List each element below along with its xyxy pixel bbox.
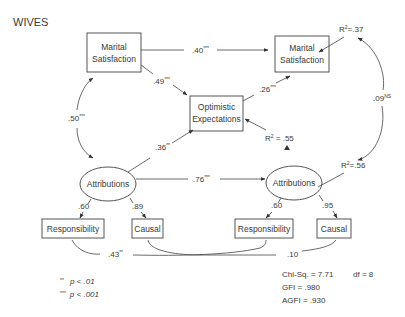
coef-label: .36**: [155, 142, 170, 152]
node-label: Attributions: [273, 178, 316, 188]
node-label: Responsibility: [47, 224, 100, 234]
node-label: Causal: [321, 224, 348, 234]
significance-legend: **p < .01 ***p < .001: [60, 277, 99, 299]
path-diagram: WIVES Marital Satisfaction Marital Satis…: [0, 0, 405, 317]
fit-gfi: GFI = .980: [282, 283, 321, 292]
loading-right-responsibility: .60: [266, 198, 283, 218]
coef-label: .10: [287, 250, 299, 259]
coef-label: .26***: [259, 84, 276, 94]
fit-agfi: AGFI = .930: [282, 296, 326, 305]
covariance-responsibility: .43**: [72, 240, 266, 259]
fit-chisq: Chi-Sq. = 7.71: [282, 270, 334, 279]
node-label: Responsibility: [238, 224, 291, 234]
path-optimistic-to-ms: .26***: [243, 76, 290, 101]
node-marital-satisfaction-t2: Marital Satisfaction: [275, 36, 329, 72]
covariance-causal: .10: [148, 240, 336, 259]
coef-label: .50***: [68, 113, 85, 123]
node-attributions-t1: Attributions: [80, 167, 136, 201]
node-causal-t2: Causal: [317, 219, 351, 238]
loading-label: .89: [132, 202, 144, 211]
coef-label: .76***: [193, 174, 210, 184]
loading-right-causal: .95: [319, 195, 337, 218]
loading-left-responsibility: .60: [78, 199, 91, 218]
loading-left-causal: .89: [130, 198, 146, 218]
path-attributions-to-optimistic: .36**: [128, 130, 193, 172]
fit-df: df = 8: [353, 270, 374, 279]
path-ms-to-optimistic: .49***: [141, 65, 187, 95]
node-label: Satisfaction: [92, 54, 136, 64]
node-optimistic-expectations: Optimistic Expectations: [190, 96, 243, 131]
path-ms-to-ms: .40***: [141, 45, 268, 55]
r2-label: R2 = .55: [265, 133, 294, 143]
r-squared-attributions: R2=.56: [318, 160, 366, 187]
covariance-residuals: .09NS: [358, 38, 392, 160]
loading-label: .60: [271, 201, 283, 210]
coef-label: .49***: [153, 76, 170, 86]
node-label: Marital: [289, 43, 315, 53]
coef-label: .09NS: [373, 93, 392, 103]
node-label: Causal: [134, 224, 161, 234]
diagram-title: WIVES: [13, 16, 48, 28]
node-causal-t1: Causal: [132, 219, 163, 238]
legend-p01: **p < .01: [60, 277, 95, 286]
node-responsibility-t2: Responsibility: [235, 219, 293, 238]
node-label: Expectations: [192, 114, 241, 124]
node-marital-satisfaction-t1: Marital Satisfaction: [87, 33, 141, 72]
node-responsibility-t1: Responsibility: [42, 219, 104, 238]
fit-statistics: Chi-Sq. = 7.71 df = 8 GFI = .980 AGFI = …: [282, 270, 374, 305]
covariance-ms-attributions: .50***: [68, 78, 93, 158]
loading-label: .60: [78, 202, 90, 211]
r2-label: R2=.37: [339, 24, 364, 34]
legend-p001: ***p < .001: [60, 290, 99, 299]
node-attributions-t2: Attributions: [266, 166, 322, 200]
path-attributions-to-attributions: .76***: [136, 174, 265, 184]
node-label: Attributions: [87, 179, 130, 189]
coef-label: .43**: [108, 249, 123, 259]
loading-label: .95: [322, 201, 334, 210]
r2-label: R2=.56: [341, 160, 366, 170]
node-label: Satisfaction: [280, 55, 324, 65]
coef-label: .40***: [192, 45, 209, 55]
r-squared-optimistic: R2 = .55: [245, 119, 294, 143]
triangle-marker-icon: [284, 145, 290, 150]
node-label: Optimistic: [198, 102, 236, 112]
node-label: Marital: [101, 42, 127, 52]
